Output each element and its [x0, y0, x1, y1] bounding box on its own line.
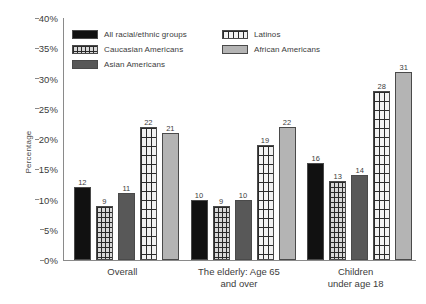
- legend-swatch-icon: [72, 30, 98, 39]
- y-axis-title: Percentage: [24, 131, 33, 174]
- bar-value-label: 22: [144, 118, 152, 127]
- bar[interactable]: 12: [74, 187, 91, 260]
- legend-item[interactable]: All racial/ethnic groups: [72, 30, 222, 39]
- y-axis-tick-mark: [35, 78, 39, 79]
- bar-value-label: 10: [239, 191, 247, 200]
- y-axis-tick-mark: [35, 199, 39, 200]
- bar-chart: Percentage 0%5%10%15%20%25%30%35%40%1291…: [0, 0, 426, 304]
- bar-value-label: 19: [261, 136, 269, 145]
- bar[interactable]: 13: [329, 181, 346, 260]
- legend-label: Caucasian Americans: [104, 45, 183, 54]
- y-axis-tick-label: 15%: [39, 164, 64, 175]
- bar[interactable]: 31: [395, 72, 412, 260]
- bar-value-label: 9: [102, 197, 106, 206]
- bar-value-label: 12: [78, 178, 86, 187]
- legend-swatch-icon: [222, 45, 248, 54]
- bar-value-label: 13: [333, 172, 341, 181]
- bar[interactable]: 19: [257, 145, 274, 260]
- legend-swatch-icon: [222, 30, 248, 39]
- y-axis-tick-mark: [35, 169, 39, 170]
- y-axis-tick-mark: [35, 18, 39, 19]
- y-axis-tick-label: 35%: [39, 43, 64, 54]
- y-axis-tick-label: 30%: [39, 73, 64, 84]
- y-axis-tick-label: 10%: [39, 194, 64, 205]
- x-axis-category-label: The elderly: Age 65 and over: [181, 266, 298, 290]
- y-axis-tick-label: 5%: [44, 224, 64, 235]
- bar[interactable]: 28: [373, 91, 390, 260]
- legend-label: Latinos: [254, 30, 281, 39]
- bar-value-label: 21: [166, 124, 174, 133]
- x-axis-line: [63, 260, 416, 261]
- bar-slot: 28: [373, 18, 390, 260]
- legend-swatch-icon: [72, 60, 98, 69]
- legend-label: Asian Americans: [104, 60, 165, 69]
- legend-label: All racial/ethnic groups: [104, 30, 187, 39]
- legend-swatch-icon: [72, 45, 98, 54]
- legend-item[interactable]: Latinos: [222, 30, 372, 39]
- bar[interactable]: 16: [307, 163, 324, 260]
- y-axis-tick-mark: [35, 108, 39, 109]
- y-axis-tick-label: 40%: [39, 13, 64, 24]
- bar-value-label: 9: [219, 197, 223, 206]
- bar[interactable]: 10: [191, 200, 208, 261]
- bar[interactable]: 11: [118, 193, 135, 260]
- x-axis-category-label: Overall: [64, 266, 181, 278]
- bar[interactable]: 14: [351, 175, 368, 260]
- bar-value-label: 16: [311, 154, 319, 163]
- bar-slot: 31: [395, 18, 412, 260]
- y-axis-tick-mark: [35, 139, 39, 140]
- y-axis-tick-mark: [40, 260, 44, 261]
- chart-legend: All racial/ethnic groupsCaucasian Americ…: [72, 27, 372, 72]
- bar[interactable]: 9: [213, 206, 230, 260]
- y-axis-tick-label: 25%: [39, 103, 64, 114]
- legend-item[interactable]: African Americans: [222, 45, 372, 54]
- y-axis-tick-mark: [35, 48, 39, 49]
- legend-item[interactable]: Caucasian Americans: [72, 45, 222, 54]
- bar[interactable]: 9: [96, 206, 113, 260]
- bar[interactable]: 22: [279, 127, 296, 260]
- bar-value-label: 14: [355, 166, 363, 175]
- y-axis-tick-label: 20%: [39, 134, 64, 145]
- bar-value-label: 10: [195, 191, 203, 200]
- bar[interactable]: 22: [140, 127, 157, 260]
- bar-value-label: 28: [377, 82, 385, 91]
- legend-label: African Americans: [254, 45, 320, 54]
- bar[interactable]: 21: [162, 133, 179, 260]
- y-axis-tick-label: 0%: [44, 255, 64, 266]
- bar-value-label: 31: [399, 63, 407, 72]
- bar-value-label: 11: [122, 184, 130, 193]
- legend-item[interactable]: Asian Americans: [72, 60, 222, 69]
- bar-value-label: 22: [283, 118, 291, 127]
- x-axis-category-label: Children under age 18: [297, 266, 414, 290]
- y-axis-tick-mark: [40, 229, 44, 230]
- bar[interactable]: 10: [235, 200, 252, 261]
